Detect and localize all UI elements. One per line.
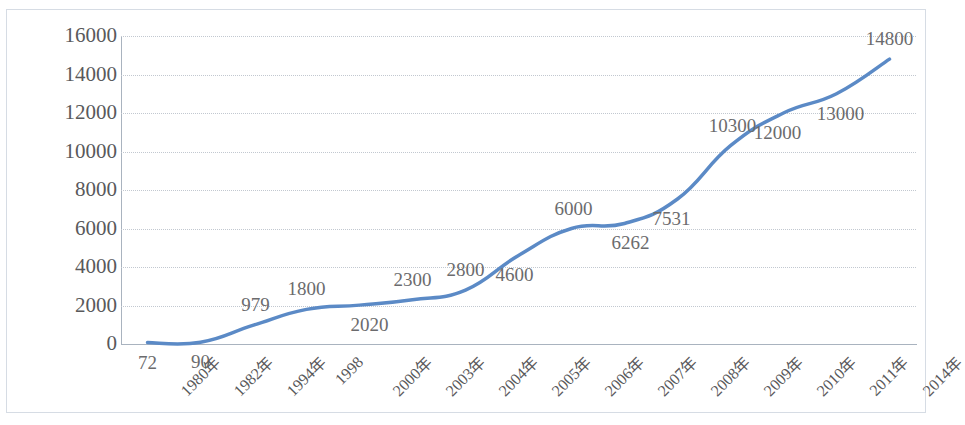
x-axis-tick-label: 2010年 bbox=[814, 354, 859, 399]
x-axis-tick-label: 2007年 bbox=[655, 354, 700, 399]
data-value-label: 2300 bbox=[394, 270, 432, 289]
y-axis-tick-label: 16000 bbox=[5, 25, 117, 46]
x-axis-tick-label: 2003年 bbox=[443, 354, 488, 399]
plot-area: 7290979180020202300280046006000626275311… bbox=[121, 36, 916, 344]
data-value-label: 12000 bbox=[754, 123, 802, 142]
data-value-label: 13000 bbox=[817, 104, 865, 123]
data-value-label: 2020 bbox=[351, 315, 389, 334]
y-axis-tick-label: 6000 bbox=[5, 218, 117, 239]
y-axis-tick-label: 0 bbox=[5, 333, 117, 354]
x-axis-tick-label: 2009年 bbox=[761, 354, 806, 399]
x-axis-tick-label: 2011年 bbox=[866, 354, 911, 399]
x-axis-tick-label: 1998 bbox=[332, 354, 366, 388]
x-axis-tick-label: 2005年 bbox=[549, 354, 594, 399]
x-axis-tick-label: 2014年 bbox=[920, 354, 965, 399]
x-axis-line bbox=[121, 344, 917, 345]
data-value-label: 2800 bbox=[447, 260, 485, 279]
data-value-label: 14800 bbox=[866, 29, 914, 48]
data-value-label: 6262 bbox=[612, 233, 650, 252]
x-axis-tick-label: 2008年 bbox=[708, 354, 753, 399]
y-axis-tick-label: 12000 bbox=[5, 102, 117, 123]
x-axis-tick-label: 1982年 bbox=[231, 354, 276, 399]
x-axis-tick-label: 2006年 bbox=[602, 354, 647, 399]
data-value-label: 6000 bbox=[555, 199, 593, 218]
data-value-label: 4600 bbox=[496, 265, 534, 284]
x-axis-tick-labels: 1980年1982年1994年19982000年2003年2004年2005年2… bbox=[121, 348, 916, 423]
y-axis-tick-label: 4000 bbox=[5, 256, 117, 277]
y-axis-tick-label: 2000 bbox=[5, 295, 117, 316]
y-axis-tick-label: 10000 bbox=[5, 141, 117, 162]
data-value-label: 7531 bbox=[653, 209, 691, 228]
x-axis-tick-label: 1980年 bbox=[178, 354, 223, 399]
y-axis-tick-label: 8000 bbox=[5, 179, 117, 200]
x-axis-tick-label: 2000年 bbox=[390, 354, 435, 399]
data-value-label: 1800 bbox=[288, 279, 326, 298]
y-axis-tick-labels: 0200040006000800010000120001400016000 bbox=[0, 0, 117, 425]
x-axis-tick-label: 1994年 bbox=[284, 354, 329, 399]
data-value-label: 10300 bbox=[709, 116, 757, 135]
series-line-path bbox=[121, 36, 916, 344]
x-axis-tick-label: 2004年 bbox=[496, 354, 541, 399]
y-axis-tick-label: 14000 bbox=[5, 64, 117, 85]
data-value-label: 979 bbox=[241, 295, 270, 314]
